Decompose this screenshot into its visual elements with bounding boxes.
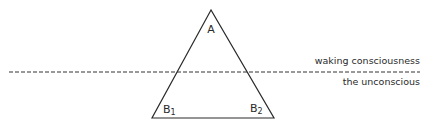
region-label-waking-consciousness: waking consciousness <box>315 55 420 66</box>
vertex-label-b1-main: B <box>163 103 171 116</box>
vertex-label-b1: B1 <box>163 103 176 117</box>
vertex-label-b1-subscript: 1 <box>171 108 176 117</box>
vertex-label-b2-subscript: 2 <box>258 107 263 116</box>
vertex-label-a: A <box>207 23 215 36</box>
vertex-label-b2-main: B <box>250 102 258 115</box>
vertex-label-b2: B2 <box>250 102 263 116</box>
region-label-unconscious: the unconscious <box>343 76 420 87</box>
consciousness-triangle-diagram: A B1 B2 waking consciousness the unconsc… <box>0 0 429 122</box>
